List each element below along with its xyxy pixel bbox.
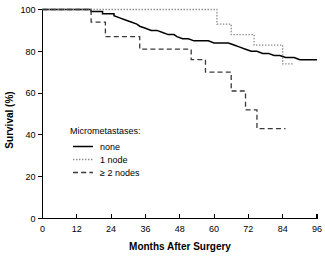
x-tick-label: 84	[278, 224, 288, 234]
x-tick-label: 12	[72, 224, 82, 234]
series-line-1-node	[43, 10, 295, 64]
x-axis-tick-labels: 01224364860728496	[40, 224, 322, 234]
y-tick-label: 80	[25, 47, 35, 57]
y-tick-label: 40	[25, 130, 35, 140]
x-tick-label: 24	[106, 224, 116, 234]
legend-label-1-node: 1 node	[100, 155, 128, 165]
legend-label-none: none	[100, 142, 120, 152]
y-tick-label: 60	[25, 88, 35, 98]
km-plot-svg: 020406080100 01224364860728496 Months Af…	[0, 0, 325, 257]
x-axis-title: Months After Surgery	[129, 241, 231, 252]
series-line-2-or-more-nodes	[43, 10, 286, 129]
survival-chart: 020406080100 01224364860728496 Months Af…	[0, 0, 325, 257]
series-line-none	[43, 10, 318, 60]
x-tick-label: 48	[175, 224, 185, 234]
legend-title: Micrometastases:	[70, 126, 141, 136]
y-tick-label: 0	[30, 214, 35, 224]
x-tick-label: 36	[140, 224, 150, 234]
y-axis-tick-labels: 020406080100	[20, 5, 35, 224]
chart-legend: Micrometastases: none 1 node ≥ 2 nodes	[70, 126, 141, 178]
y-axis-title: Survival (%)	[4, 91, 15, 148]
y-tick-label: 100	[20, 5, 35, 15]
plot-axes	[43, 9, 319, 219]
x-tick-label: 72	[243, 224, 253, 234]
y-tick-label: 20	[25, 172, 35, 182]
x-tick-label: 0	[40, 224, 45, 234]
x-tick-label: 96	[312, 224, 322, 234]
x-tick-label: 60	[209, 224, 219, 234]
legend-label-2-or-more-nodes: ≥ 2 nodes	[100, 168, 140, 178]
